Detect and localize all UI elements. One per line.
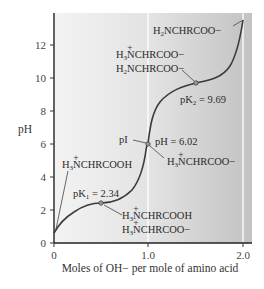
plot-area xyxy=(54,13,252,243)
plus-sign: + xyxy=(127,44,133,52)
plus-sign: + xyxy=(178,151,184,159)
svg-text:4: 4 xyxy=(41,171,47,183)
plus-sign: + xyxy=(133,205,139,213)
label-pi-value: pH = 6.02 xyxy=(155,136,197,147)
pk2-point xyxy=(194,81,198,85)
titration-chart: 0 2 4 6 8 10 12 0 1.0 2.0 pH Moles of OH… xyxy=(0,0,264,289)
plus-sign: + xyxy=(133,219,139,227)
x-tick-labels: 0 1.0 2.0 xyxy=(51,249,250,261)
y-axis-label: pH xyxy=(18,123,32,136)
svg-text:12: 12 xyxy=(35,39,46,51)
pi-point xyxy=(146,142,150,146)
svg-text:1.0: 1.0 xyxy=(141,249,155,261)
svg-text:8: 8 xyxy=(41,105,47,117)
pk1-point xyxy=(99,201,103,205)
svg-text:2: 2 xyxy=(41,204,47,216)
svg-text:0: 0 xyxy=(41,237,47,249)
svg-text:10: 10 xyxy=(35,72,47,84)
x-axis-label: Moles of OH− per mole of amino acid xyxy=(62,262,239,275)
y-tick-labels: 0 2 4 6 8 10 12 xyxy=(35,39,47,249)
svg-text:2.0: 2.0 xyxy=(236,249,250,261)
plus-sign: + xyxy=(73,154,79,162)
label-pi: pI xyxy=(119,134,128,145)
svg-text:0: 0 xyxy=(51,249,57,261)
svg-text:6: 6 xyxy=(41,138,47,150)
